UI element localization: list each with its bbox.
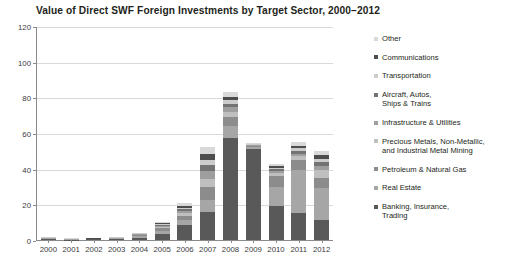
bar-segment[interactable] <box>291 170 306 213</box>
x-tick-mark <box>48 240 49 243</box>
bar-column[interactable]: 2004 <box>128 27 151 240</box>
bar-column[interactable]: 2003 <box>105 27 128 240</box>
bar-segment[interactable] <box>314 220 329 240</box>
bar-segment[interactable] <box>269 176 284 187</box>
chart-title: Value of Direct SWF Foreign Investments … <box>36 5 380 16</box>
x-tick-label: 2012 <box>313 245 330 254</box>
y-tick-label: 60 <box>22 130 31 139</box>
bar-column[interactable]: 2005 <box>151 27 174 240</box>
y-tick-mark <box>33 63 36 64</box>
bar-segment[interactable] <box>200 179 215 188</box>
x-tick-mark <box>208 240 209 243</box>
bar-segment[interactable] <box>269 206 284 240</box>
bar-segment[interactable] <box>246 149 261 240</box>
bar-stack[interactable] <box>291 142 306 240</box>
bar-column[interactable]: 2006 <box>174 27 197 240</box>
x-tick-mark <box>231 240 232 243</box>
x-tick-mark <box>117 240 118 243</box>
legend-item[interactable]: Petroleum & Natural Gas <box>374 165 502 174</box>
bar-stack[interactable] <box>200 147 215 240</box>
bar-segment[interactable] <box>314 170 329 177</box>
bar-column[interactable]: 2008 <box>219 27 242 240</box>
y-tick-mark <box>33 241 36 242</box>
bar-stack[interactable] <box>132 233 147 240</box>
x-tick-mark <box>299 240 300 243</box>
legend-item-label: Banking, Insurance,Trading <box>382 202 449 220</box>
x-tick-label: 2006 <box>176 245 193 254</box>
bar-segment[interactable] <box>223 138 238 240</box>
legend-item[interactable]: Aircraft, Autos,Ships & Trains <box>374 90 502 108</box>
legend-swatch-icon <box>374 55 378 59</box>
bar-segment[interactable] <box>269 187 284 207</box>
x-tick-label: 2009 <box>245 245 262 254</box>
x-tick-label: 2001 <box>62 245 79 254</box>
x-tick-mark <box>322 240 323 243</box>
bar-segment[interactable] <box>200 212 215 240</box>
legend-swatch-icon <box>374 205 378 209</box>
legend-item[interactable]: Precious Metals, Non-Metallic,and Indust… <box>374 137 502 155</box>
legend-item-label: Real Estate <box>382 183 421 192</box>
y-tick-mark <box>33 205 36 206</box>
y-tick-label: 40 <box>22 165 31 174</box>
bar-column[interactable]: 2001 <box>60 27 83 240</box>
bar-column[interactable]: 2012 <box>310 27 333 240</box>
bar-column[interactable]: 2010 <box>265 27 288 240</box>
x-tick-label: 2003 <box>108 245 125 254</box>
y-tick-mark <box>33 27 36 28</box>
legend-item-label: Aircraft, Autos,Ships & Trains <box>382 90 431 108</box>
bar-segment[interactable] <box>200 147 215 154</box>
bar-stack[interactable] <box>155 222 170 240</box>
bar-segment[interactable] <box>200 187 215 199</box>
legend-swatch-icon <box>374 139 378 143</box>
legend-item[interactable]: Transportation <box>374 71 502 80</box>
bar-stack[interactable] <box>223 92 238 240</box>
bar-segment[interactable] <box>223 117 238 126</box>
x-tick-mark <box>162 240 163 243</box>
bar-column[interactable]: 2009 <box>242 27 265 240</box>
legend-item-label: Other <box>382 34 401 43</box>
legend-item[interactable]: Other <box>374 34 502 43</box>
bar-column[interactable]: 2007 <box>196 27 219 240</box>
bar-segment[interactable] <box>314 188 329 220</box>
x-tick-label: 2004 <box>131 245 148 254</box>
x-tick-mark <box>71 240 72 243</box>
legend-item-label: Communications <box>382 53 439 62</box>
y-tick-label: 80 <box>22 94 31 103</box>
bar-stack[interactable] <box>177 203 192 240</box>
bar-stack[interactable] <box>269 164 284 240</box>
y-tick-label: 0 <box>27 237 31 246</box>
legend-swatch-icon <box>374 121 378 125</box>
y-tick-label: 100 <box>18 58 31 67</box>
bar-segment[interactable] <box>291 213 306 240</box>
x-tick-mark <box>253 240 254 243</box>
legend-item[interactable]: Banking, Insurance,Trading <box>374 202 502 220</box>
legend-item[interactable]: Infrastructure & Utilities <box>374 118 502 127</box>
bar-column[interactable]: 2000 <box>37 27 60 240</box>
bar-segment[interactable] <box>177 225 192 240</box>
bar-segment[interactable] <box>200 171 215 178</box>
legend-swatch-icon <box>374 186 378 190</box>
bar-stack[interactable] <box>246 143 261 240</box>
bar-column[interactable]: 2011 <box>287 27 310 240</box>
x-tick-label: 2000 <box>40 245 57 254</box>
bar-segment[interactable] <box>200 200 215 212</box>
x-tick-mark <box>139 240 140 243</box>
x-tick-label: 2011 <box>290 245 307 254</box>
x-tick-label: 2007 <box>199 245 216 254</box>
bar-column[interactable]: 2002 <box>83 27 106 240</box>
legend-item-label: Petroleum & Natural Gas <box>382 165 466 174</box>
legend-item-label: Precious Metals, Non-Metallic,and Indust… <box>382 137 485 155</box>
y-tick-mark <box>33 170 36 171</box>
x-tick-label: 2002 <box>85 245 102 254</box>
legend-item[interactable]: Communications <box>374 53 502 62</box>
bar-stack[interactable] <box>314 151 329 240</box>
bar-segment[interactable] <box>314 178 329 189</box>
bar-segment[interactable] <box>291 160 306 171</box>
legend-item-label: Infrastructure & Utilities <box>382 118 461 127</box>
legend-swatch-icon <box>374 167 378 171</box>
bar-series-group: 2000200120022003200420052006200720082009… <box>37 27 333 240</box>
bar-segment[interactable] <box>223 126 238 138</box>
x-tick-mark <box>276 240 277 243</box>
legend-item[interactable]: Real Estate <box>374 183 502 192</box>
legend-swatch-icon <box>374 37 378 41</box>
